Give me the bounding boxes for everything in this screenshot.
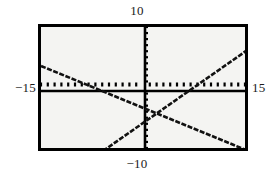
plotted-lines bbox=[41, 51, 245, 148]
plot-canvas bbox=[41, 27, 245, 148]
x-axis bbox=[41, 83, 245, 92]
plot-frame bbox=[38, 24, 248, 151]
x-axis-ticks bbox=[41, 83, 245, 87]
graphing-calculator-screen: 10 −15 15 −10 bbox=[0, 0, 274, 176]
y-axis bbox=[144, 27, 148, 148]
y-max-label: 10 bbox=[0, 4, 274, 17]
x-min-label: −15 bbox=[2, 81, 36, 94]
descending-line bbox=[41, 66, 245, 148]
x-max-label: 15 bbox=[252, 81, 265, 94]
y-min-label: −10 bbox=[0, 157, 274, 170]
plot-area bbox=[41, 27, 245, 148]
